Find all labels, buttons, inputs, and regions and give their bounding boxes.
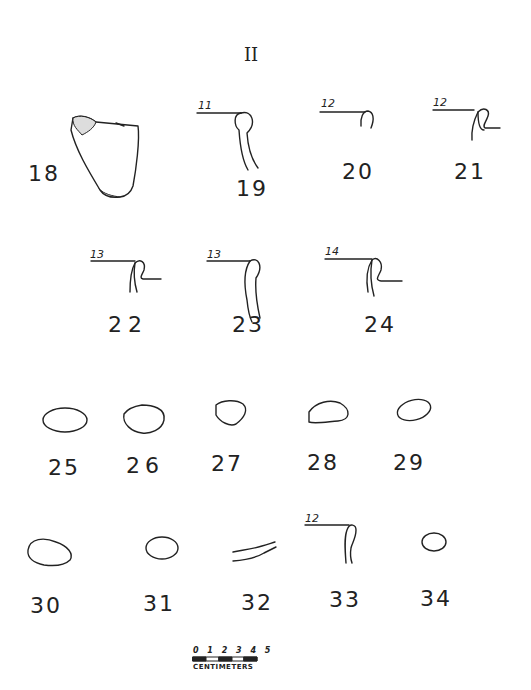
rim-24-drawing	[325, 259, 402, 296]
figure-label-22: 22	[108, 312, 148, 337]
figure-label-19: 19	[236, 176, 268, 201]
figure-label-33: 33	[329, 587, 361, 612]
rim-19-drawing	[197, 113, 258, 170]
figure-label-31: 31	[143, 591, 175, 616]
section-32-drawing	[233, 542, 276, 561]
figure-label-27: 27	[211, 451, 243, 476]
diameter-label-20: 12	[321, 97, 335, 110]
figure-label-29: 29	[393, 450, 425, 475]
scale-unit: CENTIMETERS	[193, 663, 253, 671]
rim-33-drawing	[305, 525, 356, 563]
rim-20-drawing	[320, 111, 373, 128]
section-28-drawing	[309, 401, 348, 423]
rim-22-drawing	[91, 261, 161, 292]
diameter-label-24: 14	[325, 245, 339, 258]
figure-label-34: 34	[420, 586, 452, 611]
diameter-label-22: 13	[90, 248, 104, 261]
section-29-drawing	[395, 396, 433, 424]
section-31-drawing	[146, 537, 178, 559]
diameter-label-21: 12	[433, 96, 447, 109]
diameter-label-33: 12	[305, 512, 319, 525]
diameter-label-19: 11	[198, 99, 212, 112]
section-26-drawing	[124, 405, 164, 433]
figure-label-25: 25	[48, 455, 80, 480]
sherd-18-drawing	[71, 116, 139, 197]
figure-label-28: 28	[307, 450, 339, 475]
figure-label-24: 24	[364, 312, 396, 337]
diameter-label-23: 13	[207, 248, 221, 261]
figure-label-21: 21	[454, 159, 486, 184]
figure-label-26: 26	[126, 453, 164, 478]
figure-label-30: 30	[30, 593, 62, 618]
section-30-drawing	[28, 539, 71, 565]
figure-label-23: 23	[232, 312, 264, 337]
section-25-drawing	[43, 408, 87, 432]
section-27-drawing	[216, 401, 246, 425]
scale-bar	[193, 657, 257, 661]
scale-ticks: 0 1 2 3 4 5	[193, 646, 273, 655]
figure-label-18: 18	[28, 161, 60, 186]
section-34-drawing	[422, 533, 446, 551]
figure-label-32: 32	[241, 590, 273, 615]
rim-21-drawing	[433, 109, 500, 140]
figure-label-20: 20	[342, 159, 374, 184]
